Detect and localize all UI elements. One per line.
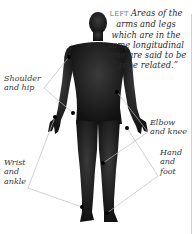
knee-dot	[101, 161, 105, 165]
elbow-dot	[115, 90, 119, 94]
page-edge-rule	[191, 14, 192, 234]
zone-related-diagram: LEFT Areas of the arms and legs which ar…	[0, 0, 195, 234]
caption-tag: LEFT	[110, 10, 131, 18]
label-wrist-ankle: Wrist and ankle	[4, 158, 26, 186]
wrist-dot	[53, 115, 57, 119]
shoulder-dot	[67, 55, 71, 59]
foot-dot	[105, 211, 109, 215]
label-hand-foot: Hand and foot	[160, 148, 182, 176]
hand-dot	[125, 126, 129, 130]
label-elbow-knee: Elbow and knee	[150, 118, 187, 137]
hip-dot	[71, 111, 75, 115]
label-shoulder-hip: Shoulder and hip	[4, 74, 41, 93]
figure-caption: LEFT Areas of the arms and legs which ar…	[103, 8, 189, 71]
ankle-dot	[80, 205, 84, 209]
